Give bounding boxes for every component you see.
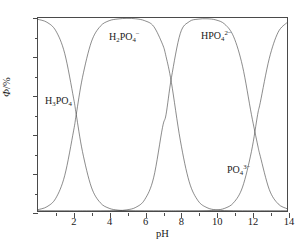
y-tick-100 xyxy=(33,18,38,19)
x-tick-label-6: 6 xyxy=(133,216,159,227)
x-minor-tick-11 xyxy=(235,213,236,216)
y-axis-title: Φ/% xyxy=(1,77,12,97)
x-tick-label-2: 2 xyxy=(61,216,87,227)
figure: Φ/% pH 020406080100 2468101214 H3PO4H2PO… xyxy=(0,0,299,248)
species-label-h2po4: H2PO4− xyxy=(109,31,140,42)
x-tick-label-8: 8 xyxy=(168,216,194,227)
x-tick-label-14: 14 xyxy=(276,216,299,227)
y-minor-tick-90 xyxy=(35,38,38,39)
y-axis-title-unit: /% xyxy=(1,77,12,89)
plot-area: 020406080100 2468101214 H3PO4H2PO4−HPO42… xyxy=(37,17,288,212)
y-tick-40 xyxy=(33,135,38,136)
y-tick-0 xyxy=(33,213,38,214)
y-minor-tick-30 xyxy=(35,155,38,156)
y-axis-title-symbol: Φ xyxy=(1,89,12,97)
y-minor-tick-50 xyxy=(35,116,38,117)
y-tick-20 xyxy=(33,174,38,175)
y-tick-80 xyxy=(33,57,38,58)
curve-po43 xyxy=(38,23,287,211)
x-tick-label-10: 10 xyxy=(204,216,230,227)
y-minor-tick-10 xyxy=(35,194,38,195)
y-minor-tick-70 xyxy=(35,77,38,78)
x-minor-tick-1 xyxy=(56,213,57,216)
curve-h3po4 xyxy=(38,19,287,211)
curve-h2po4 xyxy=(38,18,287,211)
x-minor-tick-7 xyxy=(164,213,165,216)
x-minor-tick-9 xyxy=(199,213,200,216)
y-tick-60 xyxy=(33,96,38,97)
curve-hpo42 xyxy=(38,19,287,211)
caption-fragment xyxy=(0,0,299,8)
x-minor-tick-3 xyxy=(92,213,93,216)
x-tick-label-4: 4 xyxy=(97,216,123,227)
species-label-hpo4: HPO42− xyxy=(201,30,232,41)
x-axis-title: pH xyxy=(37,228,288,239)
x-minor-tick-5 xyxy=(128,213,129,216)
curves-svg xyxy=(38,18,287,211)
x-tick-label-12: 12 xyxy=(240,216,266,227)
species-label-po4: PO43− xyxy=(227,164,250,175)
x-minor-tick-13 xyxy=(271,213,272,216)
species-label-h3po4: H3PO4 xyxy=(45,95,72,106)
